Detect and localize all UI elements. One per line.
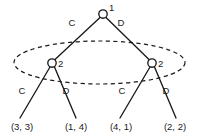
action-label-root-c: C xyxy=(69,17,76,28)
payoff-label-cd: (1, 4) xyxy=(65,121,87,132)
action-label-right-c: C xyxy=(119,85,126,96)
left-node-player-label: 2 xyxy=(58,58,63,69)
action-label-left-c: C xyxy=(19,85,26,96)
payoff-label-dc: (4, 1) xyxy=(110,121,132,132)
right-node-player-label: 2 xyxy=(158,58,163,69)
edge-root-to-left-node xyxy=(55,18,100,60)
right-decision-node-player2 xyxy=(148,59,156,67)
action-label-left-d: D xyxy=(63,85,70,96)
edge-root-to-right-node xyxy=(106,18,149,60)
root-node-player1 xyxy=(99,10,107,18)
left-decision-node-player2 xyxy=(48,59,56,67)
action-label-root-d: D xyxy=(118,17,125,28)
action-label-right-d: D xyxy=(163,85,170,96)
game-tree-figure: 1 2 2 C D C D C D (3, 3) (1, 4) (4, 1) (… xyxy=(0,0,197,136)
root-player-label: 1 xyxy=(109,2,114,13)
payoff-label-dd: (2, 2) xyxy=(164,121,186,132)
game-tree-canvas: 1 2 2 C D C D C D (3, 3) (1, 4) (4, 1) (… xyxy=(0,0,197,136)
payoff-label-cc: (3, 3) xyxy=(11,121,33,132)
